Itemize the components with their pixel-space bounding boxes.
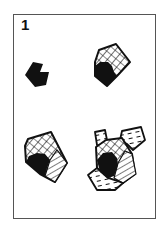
stage-2-shape — [95, 44, 130, 86]
stage-3-shape — [25, 132, 67, 182]
stage-4-shape — [88, 127, 145, 190]
diagram-canvas — [0, 0, 163, 227]
stage-1-core — [25, 62, 49, 87]
